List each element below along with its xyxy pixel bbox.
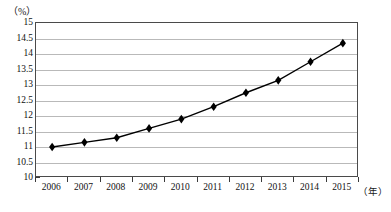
data-point-marker	[49, 143, 55, 152]
y-tick-label: 13.5	[3, 64, 33, 74]
data-point-marker	[243, 88, 249, 97]
line-chart: （%） 1514.51413.51312.51211.51110.510 200…	[0, 0, 391, 212]
y-tick-label: 12.5	[3, 95, 33, 105]
data-point-marker	[178, 115, 184, 124]
y-tick-label: 10	[3, 172, 33, 182]
y-tick-label: 14.5	[3, 33, 33, 43]
series-line	[52, 43, 343, 147]
x-tick-label: 2012	[235, 182, 254, 192]
x-tick-mark	[358, 177, 359, 182]
x-tick-label: 2007	[74, 182, 93, 192]
data-series	[36, 23, 359, 178]
data-point-marker	[146, 124, 152, 133]
y-tick-label: 12	[3, 110, 33, 120]
x-tick-label: 2009	[139, 182, 158, 192]
data-point-marker	[81, 138, 87, 147]
y-tick-label: 13	[3, 79, 33, 89]
data-point-marker	[275, 76, 281, 85]
x-tick-label: 2011	[203, 182, 222, 192]
y-tick-label: 14	[3, 48, 33, 58]
x-axis-unit-label: （年）	[358, 184, 388, 198]
y-axis-unit-label: （%）	[8, 3, 36, 18]
x-axis-tick-labels: 2006200720082009201020112012201320142015	[35, 179, 358, 201]
data-point-marker	[211, 102, 217, 111]
y-tick-label: 11	[3, 141, 33, 151]
y-tick-label: 15	[3, 17, 33, 27]
x-tick-label: 2015	[332, 182, 351, 192]
x-tick-label: 2013	[268, 182, 287, 192]
plot-area	[35, 22, 358, 177]
x-tick-label: 2006	[42, 182, 61, 192]
data-point-marker	[114, 133, 120, 142]
y-tick-label: 11.5	[3, 126, 33, 136]
y-axis-tick-labels: 1514.51413.51312.51211.51110.510	[0, 22, 33, 177]
x-tick-label: 2010	[171, 182, 190, 192]
data-point-marker	[340, 39, 346, 48]
series-markers	[49, 39, 346, 151]
x-tick-label: 2008	[106, 182, 125, 192]
y-tick-label: 10.5	[3, 157, 33, 167]
x-tick-label: 2014	[300, 182, 319, 192]
data-point-marker	[307, 57, 313, 66]
